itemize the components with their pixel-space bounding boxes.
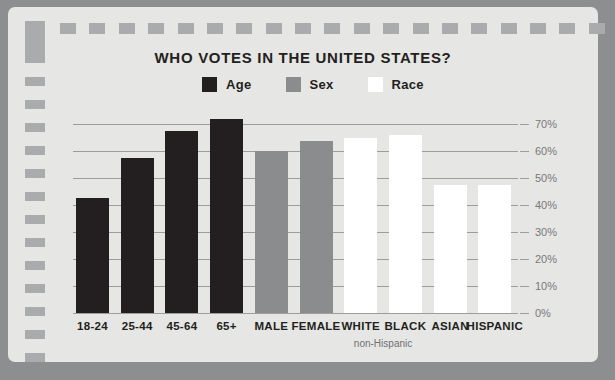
y-axis-tick	[520, 178, 529, 179]
bar-black	[389, 135, 422, 313]
dash-mark	[324, 23, 340, 34]
dash-mark	[559, 23, 575, 34]
y-axis-label: 20%	[535, 253, 557, 265]
dash-mark	[442, 23, 458, 34]
dash-mark	[236, 23, 252, 34]
y-axis-tick	[520, 124, 529, 125]
x-axis-label-black: BLACK	[385, 320, 427, 332]
chart-legend: Age Sex Race	[8, 77, 598, 92]
dash-mark	[207, 23, 223, 34]
legend-swatch-age	[202, 77, 217, 92]
x-axis-sublabel: non-Hispanic	[354, 338, 412, 349]
y-axis-label: 30%	[535, 226, 557, 238]
dash-mark	[60, 23, 76, 34]
dash-mark	[178, 23, 194, 34]
x-axis-labels: 18-2425-4445-6465+MALEFEMALEWHITEBLACKAS…	[73, 320, 533, 338]
bar-45-64	[165, 131, 198, 313]
y-axis-label: 0%	[535, 307, 551, 319]
bar-female	[300, 141, 333, 313]
y-axis-label: 50%	[535, 172, 557, 184]
gridline	[73, 124, 518, 125]
x-axis-label-18-24: 18-24	[77, 320, 108, 332]
chart-screenshot: WHO VOTES IN THE UNITED STATES? Age Sex …	[0, 0, 615, 380]
dash-mark	[501, 23, 517, 34]
legend-label-age: Age	[226, 77, 251, 92]
dash-mark	[25, 215, 45, 224]
bar-white	[344, 138, 377, 313]
y-axis-label: 40%	[535, 199, 557, 211]
legend-swatch-race	[368, 77, 383, 92]
dash-mark	[354, 23, 370, 34]
top-dash-decoration	[60, 23, 605, 34]
y-axis-label: 60%	[535, 145, 557, 157]
y-axis-label: 70%	[535, 118, 557, 130]
dash-mark	[25, 100, 45, 109]
page-title: WHO VOTES IN THE UNITED STATES?	[8, 49, 598, 66]
dash-mark	[25, 307, 45, 316]
y-axis-tick	[520, 151, 529, 152]
bar-18-24	[76, 198, 109, 313]
dash-mark	[25, 238, 45, 247]
dash-mark	[25, 284, 45, 293]
dash-mark	[25, 146, 45, 155]
dash-mark	[25, 353, 45, 362]
legend-item-sex: Sex	[286, 77, 334, 92]
x-axis-label-hispanic: HISPANIC	[467, 320, 524, 332]
bar-male	[255, 151, 288, 313]
bar-25-44	[121, 158, 154, 313]
dash-mark	[148, 23, 164, 34]
x-axis-label-25-44: 25-44	[122, 320, 153, 332]
dash-mark	[530, 23, 546, 34]
dash-mark	[25, 169, 45, 178]
y-axis-tick	[520, 205, 529, 206]
legend-item-race: Race	[368, 77, 424, 92]
bar-65-	[210, 119, 243, 313]
dash-mark	[295, 23, 311, 34]
bar-hispanic	[478, 185, 511, 313]
y-axis-tick	[520, 259, 529, 260]
dash-mark	[89, 23, 105, 34]
dash-mark	[589, 23, 605, 34]
x-axis-label-male: MALE	[254, 320, 288, 332]
dash-mark	[25, 192, 45, 201]
gridline	[73, 151, 518, 152]
plot-area: 0%10%20%30%40%50%60%70%	[73, 124, 518, 313]
y-axis-label: 10%	[535, 280, 557, 292]
chart-card: WHO VOTES IN THE UNITED STATES? Age Sex …	[8, 7, 598, 362]
y-axis-tick	[520, 232, 529, 233]
dash-mark	[413, 23, 429, 34]
dash-mark	[471, 23, 487, 34]
x-axis-label-white: WHITE	[341, 320, 380, 332]
legend-label-race: Race	[392, 77, 424, 92]
left-dash-decoration	[25, 77, 45, 362]
gridline	[73, 313, 518, 314]
dash-mark	[25, 123, 45, 132]
legend-item-age: Age	[202, 77, 251, 92]
dash-mark	[25, 330, 45, 339]
x-axis-label-65-: 65+	[216, 320, 236, 332]
x-axis-label-45-64: 45-64	[166, 320, 197, 332]
x-axis-label-female: FEMALE	[291, 320, 340, 332]
dash-mark	[25, 261, 45, 270]
dash-mark	[266, 23, 282, 34]
legend-label-sex: Sex	[310, 77, 334, 92]
legend-swatch-sex	[286, 77, 301, 92]
dash-mark	[119, 23, 135, 34]
dash-mark	[383, 23, 399, 34]
x-axis-label-asian: ASIAN	[431, 320, 468, 332]
y-axis-tick	[520, 286, 529, 287]
y-axis-tick	[520, 313, 529, 314]
bar-asian	[434, 185, 467, 313]
